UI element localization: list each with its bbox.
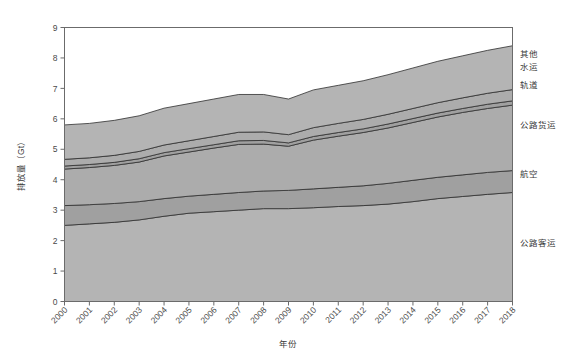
y-tick-label: 4 [53,175,58,185]
x-axis-title: 年份 [279,339,297,349]
y-tick-label: 8 [53,53,58,63]
legend-item-水运: 水运 [520,62,538,72]
chart-canvas: 0123456789 20002001200220032004200520062… [0,0,584,355]
legend-item-其他: 其他 [520,49,538,59]
legend-item-航空: 航空 [520,169,538,179]
y-tick-label: 0 [53,297,58,307]
y-tick-label: 1 [53,266,58,276]
y-tick-label: 7 [53,84,58,94]
y-tick-label: 5 [53,144,58,154]
y-axis-title: 排放量（Gt） [16,137,26,191]
legend-item-轨道: 轨道 [520,80,538,90]
y-tick-label: 6 [53,114,58,124]
y-tick-label: 2 [53,236,58,246]
legend-item-公路客运: 公路客运 [520,238,556,248]
emissions-stacked-area-chart: 0123456789 20002001200220032004200520062… [0,0,584,355]
y-tick-label: 3 [53,205,58,215]
y-tick-label: 9 [53,23,58,33]
legend-item-公路货运: 公路货运 [520,120,556,130]
